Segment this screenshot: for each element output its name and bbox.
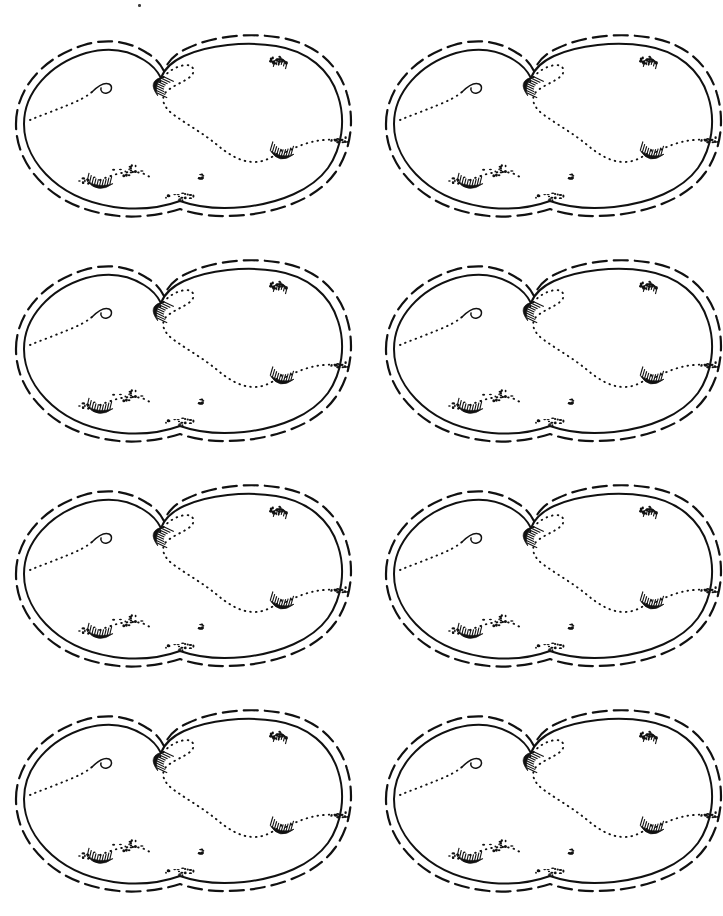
hatched-marks (86, 507, 295, 640)
islet-speck (568, 174, 575, 180)
hatched-marks (86, 732, 295, 865)
outer-contour (16, 485, 351, 666)
outer-contour (386, 35, 721, 216)
stipple-clusters (78, 281, 348, 427)
islet-speck (568, 849, 575, 855)
hatched-marks (456, 732, 665, 865)
islet-speck (198, 624, 205, 630)
figure-cell (378, 695, 718, 900)
stipple-clusters (448, 731, 718, 877)
interior-dotted-trail (400, 767, 462, 795)
islet-speck (198, 849, 205, 855)
interior-dotted-trail (160, 65, 282, 162)
interior-dotted-trail (530, 515, 652, 612)
inner-coastline (24, 269, 342, 434)
spiral-hook (462, 308, 481, 318)
interior-dotted-trail (30, 767, 92, 795)
islet-speck (568, 399, 575, 405)
hatched-marks (456, 282, 665, 415)
interior-dotted-trail (160, 290, 282, 387)
interior-dotted-trail (530, 290, 652, 387)
interior-dotted-trail (160, 515, 282, 612)
island-outline-map (8, 695, 348, 900)
island-outline-map (8, 20, 348, 225)
islet-speck (198, 399, 205, 405)
island-outline-map (378, 20, 718, 225)
inner-coastline (24, 44, 342, 209)
stipple-clusters (448, 56, 718, 202)
spiral-hook (92, 758, 111, 768)
hatched-marks (456, 507, 665, 640)
island-outline-map (378, 695, 718, 900)
stipple-clusters (78, 506, 348, 652)
interior-dotted-trail (30, 92, 92, 120)
interior-dotted-trail (30, 317, 92, 345)
inner-coastline (394, 269, 712, 434)
inner-coastline (24, 494, 342, 659)
hatched-marks (86, 57, 295, 190)
stipple-clusters (78, 56, 348, 202)
outer-contour (386, 710, 721, 891)
interior-dotted-trail (160, 740, 282, 837)
island-outline-map (8, 470, 348, 675)
stipple-clusters (78, 731, 348, 877)
spiral-hook (92, 533, 111, 543)
figure-cell (8, 470, 348, 675)
interior-dotted-trail (400, 317, 462, 345)
island-outline-map (8, 245, 348, 450)
spiral-hook (92, 308, 111, 318)
spiral-hook (462, 83, 481, 93)
figure-cell (8, 695, 348, 900)
outer-contour (16, 35, 351, 216)
interior-dotted-trail (530, 65, 652, 162)
outer-contour (16, 260, 351, 441)
interior-dotted-trail (530, 740, 652, 837)
scan-speck (138, 4, 141, 7)
stipple-clusters (448, 506, 718, 652)
figure-cell (8, 20, 348, 225)
stipple-clusters (448, 281, 718, 427)
figure-cell (378, 20, 718, 225)
spiral-hook (462, 758, 481, 768)
hatched-marks (86, 282, 295, 415)
figure-cell (8, 245, 348, 450)
hatched-marks (456, 57, 665, 190)
interior-dotted-trail (400, 92, 462, 120)
figure-cell (378, 245, 718, 450)
outer-contour (16, 710, 351, 891)
island-outline-map (378, 245, 718, 450)
inner-coastline (24, 719, 342, 884)
inner-coastline (394, 44, 712, 209)
spiral-hook (462, 533, 481, 543)
outer-contour (386, 485, 721, 666)
inner-coastline (394, 719, 712, 884)
islet-speck (198, 174, 205, 180)
figure-cell (378, 470, 718, 675)
interior-dotted-trail (400, 542, 462, 570)
outer-contour (386, 260, 721, 441)
interior-dotted-trail (30, 542, 92, 570)
worksheet-page (0, 0, 723, 916)
inner-coastline (394, 494, 712, 659)
spiral-hook (92, 83, 111, 93)
islet-speck (568, 624, 575, 630)
island-outline-map (378, 470, 718, 675)
